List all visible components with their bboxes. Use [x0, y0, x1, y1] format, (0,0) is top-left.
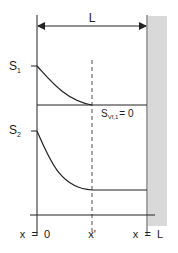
s1-profile-curve: [37, 66, 92, 105]
s2-label: S2: [9, 123, 21, 138]
s1-label: S1: [9, 59, 21, 74]
concentration-profile-diagram: L S1 SVf,1= 0 S2 x = 0 x' x = L: [0, 0, 178, 253]
x-zero-label: x = 0: [20, 228, 50, 240]
wall-boundary: [148, 16, 167, 226]
x-l-label: x = L: [133, 228, 163, 240]
s-vf1-label: SVf,1= 0: [101, 108, 134, 120]
length-label: L: [89, 11, 96, 25]
s2-profile-curve: [37, 131, 92, 190]
x-prime-label: x': [88, 228, 96, 240]
